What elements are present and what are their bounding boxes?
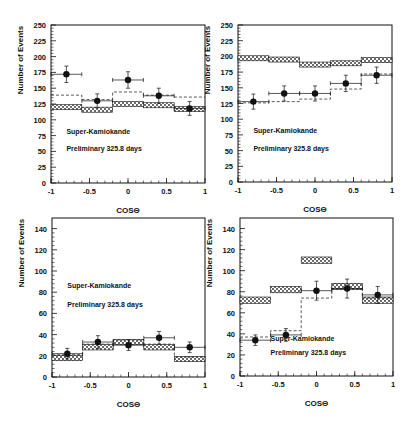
mc-band-bin <box>271 286 302 292</box>
data-point-marker <box>156 335 162 341</box>
y-tick-label: 40 <box>39 331 47 340</box>
x-tick-label: -0.5 <box>84 381 97 390</box>
y-tick-label: 175 <box>33 68 46 77</box>
data-point-marker <box>95 339 101 345</box>
y-tick-label: 25 <box>225 162 233 171</box>
y-tick-label: 60 <box>39 309 47 318</box>
y-tick-label: 75 <box>38 132 46 141</box>
y-tick-label: 0 <box>231 372 235 381</box>
y-tick-label: 120 <box>222 246 235 255</box>
y-axis-title: Number of Events <box>17 218 26 287</box>
y-tick-label: 0 <box>43 373 47 382</box>
y-tick-label: 100 <box>220 115 233 124</box>
y-tick-label: 80 <box>227 288 235 297</box>
x-tick-label: 0.5 <box>350 380 360 389</box>
x-tick-label: 1 <box>203 381 207 390</box>
y-tick-label: 100 <box>34 267 47 276</box>
mc-band-bin <box>361 58 392 63</box>
y-tick-label: 140 <box>34 225 47 234</box>
y-tick-label: 100 <box>33 116 46 125</box>
y-tick-label: 200 <box>33 53 46 62</box>
y-tick-label: 50 <box>225 147 233 156</box>
data-point-marker <box>156 93 162 99</box>
data-point-marker <box>63 71 69 77</box>
y-tick-label: 225 <box>33 37 46 46</box>
chart-panel-bottom-right: 020406080100120140-1-0.500.51COSΘNumber … <box>205 218 395 408</box>
y-tick-label: 125 <box>33 100 46 109</box>
data-point-marker <box>373 72 379 78</box>
x-tick-label: -1 <box>235 186 242 195</box>
y-tick-label: 200 <box>220 52 233 61</box>
x-axis-title: COSΘ <box>303 205 327 214</box>
annotation-text: Super-Kamiokande <box>67 282 131 290</box>
plot-canvas: 0255075100125150175200225250-1-0.500.51C… <box>0 0 413 424</box>
plot-frame <box>52 218 205 377</box>
x-tick-label: -0.5 <box>272 380 285 389</box>
mc-band-bin <box>144 345 175 350</box>
series-data-points <box>238 67 392 109</box>
y-tick-label: 60 <box>227 309 235 318</box>
mc-oscillation-histogram <box>51 92 205 100</box>
y-tick-label: 225 <box>220 37 233 46</box>
y-tick-label: 125 <box>220 100 233 109</box>
x-tick-label: 0.5 <box>348 186 358 195</box>
y-tick-label: 150 <box>33 84 46 93</box>
data-point-marker <box>125 342 131 348</box>
y-axis-title: Number of Events <box>205 218 214 287</box>
data-point-marker <box>94 98 100 104</box>
y-tick-label: 20 <box>39 352 47 361</box>
mc-band-bin <box>238 56 269 61</box>
x-tick-label: -1 <box>48 187 55 196</box>
figure: 0255075100125150175200225250-1-0.500.51C… <box>0 0 413 424</box>
x-tick-label: -0.5 <box>83 187 96 196</box>
annotation-text: Preliminary 325.8 days <box>66 145 142 153</box>
y-tick-label: 250 <box>220 21 233 30</box>
data-point-marker <box>250 98 256 104</box>
data-point-marker <box>187 344 193 350</box>
series-mc-with-oscillation <box>51 92 205 100</box>
annotation-text: Super-Kamiokande <box>271 335 335 343</box>
x-tick-label: -1 <box>237 380 244 389</box>
mc-band-bin <box>300 62 331 67</box>
y-tick-label: 0 <box>229 178 233 187</box>
data-point-marker <box>343 80 349 86</box>
y-tick-label: 250 <box>33 21 46 30</box>
y-tick-label: 140 <box>222 225 235 234</box>
x-axis-title: COSΘ <box>117 400 141 409</box>
x-axis-title: COSΘ <box>305 399 329 408</box>
x-tick-label: 0 <box>126 381 130 390</box>
annotation-text: Preliminary 325.8 days <box>253 145 329 153</box>
mc-band-bin <box>113 101 144 106</box>
plot-frame <box>238 25 392 182</box>
y-axis-title: Number of Events <box>203 25 212 94</box>
data-point-marker <box>313 287 319 293</box>
data-point-marker <box>64 350 70 356</box>
mc-band-bin <box>301 257 332 263</box>
x-tick-label: 1 <box>391 380 395 389</box>
y-tick-label: 120 <box>34 246 47 255</box>
data-point-marker <box>186 105 192 111</box>
chart-panel-top-left: 0255075100125150175200225250-1-0.500.51C… <box>16 21 207 215</box>
y-tick-label: 150 <box>220 84 233 93</box>
data-point-marker <box>281 90 287 96</box>
data-point-marker <box>125 77 131 83</box>
y-tick-label: 80 <box>39 288 47 297</box>
y-tick-label: 0 <box>42 179 46 188</box>
y-tick-label: 75 <box>225 131 233 140</box>
x-tick-label: 0 <box>313 186 317 195</box>
y-tick-label: 20 <box>227 351 235 360</box>
mc-band-bin <box>240 297 271 303</box>
x-tick-label: -0.5 <box>270 186 283 195</box>
y-tick-label: 40 <box>227 330 235 339</box>
x-tick-label: 0.5 <box>161 187 171 196</box>
data-point-marker <box>283 332 289 338</box>
mc-band-bin <box>51 105 82 110</box>
x-tick-label: 1 <box>390 186 394 195</box>
x-tick-label: -1 <box>49 381 56 390</box>
data-point-marker <box>312 90 318 96</box>
chart-panel-top-right: 0255075100125150175200225250-1-0.500.51C… <box>203 21 394 214</box>
annotation-text: Super-Kamiokande <box>66 128 130 136</box>
data-point-marker <box>344 285 350 291</box>
y-tick-label: 100 <box>222 267 235 276</box>
x-tick-label: 0 <box>126 187 130 196</box>
